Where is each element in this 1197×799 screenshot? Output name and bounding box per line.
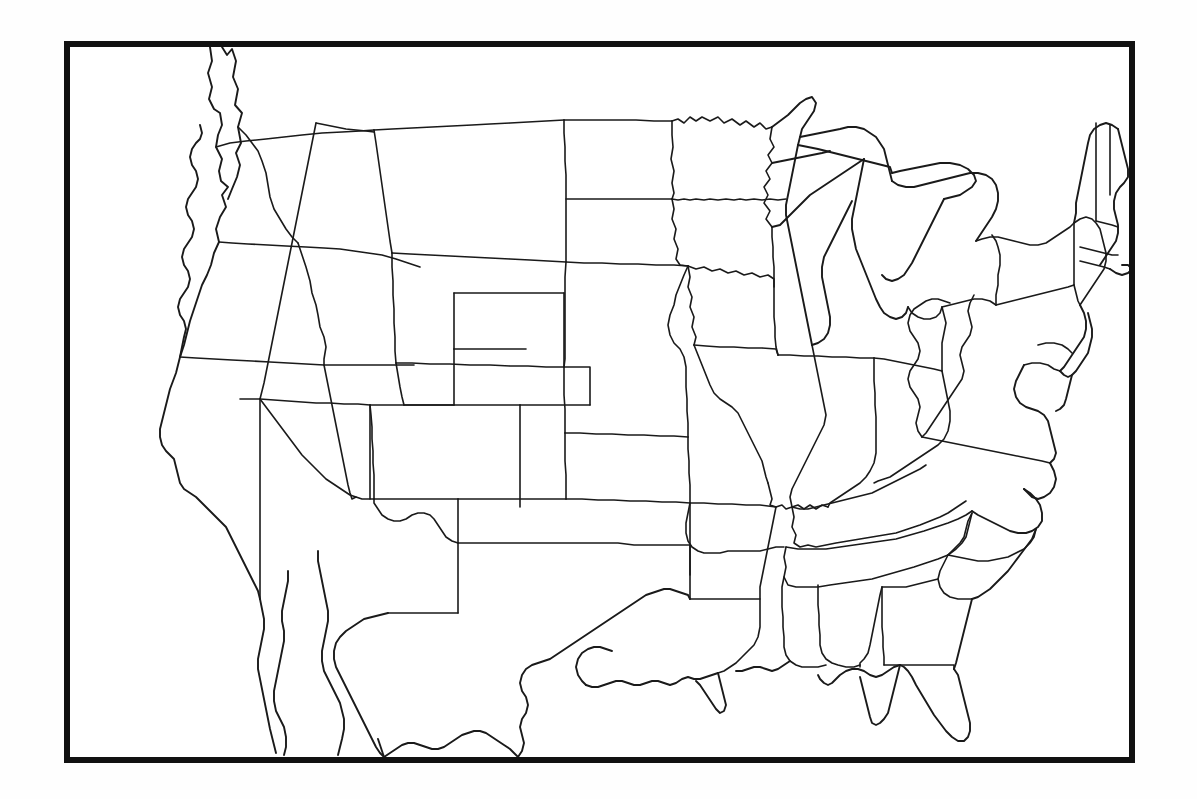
- baja-california-peninsula: [258, 551, 344, 755]
- state-south-carolina: [938, 529, 1036, 599]
- state-mississippi: [736, 577, 826, 671]
- state-new-mexico: [370, 405, 520, 543]
- state-alabama: [818, 585, 882, 667]
- state-kansas: [565, 433, 690, 503]
- state-florida: [818, 665, 970, 741]
- state-texas: [334, 543, 690, 757]
- state-missouri: [690, 345, 792, 509]
- great-lakes-and-upper-peninsula: [772, 97, 998, 281]
- state-oklahoma: [458, 499, 690, 575]
- state-wisconsin: [772, 145, 874, 358]
- state-tennessee: [784, 511, 972, 587]
- state-michigan-lower: [812, 159, 942, 345]
- state-south-dakota: [566, 199, 688, 266]
- state-iowa: [688, 266, 778, 355]
- state-ohio: [874, 299, 996, 483]
- state-arkansas: [686, 503, 784, 599]
- state-minnesota: [672, 117, 786, 227]
- map-page: [0, 0, 1197, 799]
- state-north-carolina: [948, 463, 1056, 561]
- state-north-dakota: [564, 120, 674, 199]
- state-wyoming: [392, 253, 566, 367]
- state-virginia: [922, 365, 1056, 463]
- new-england-states: [1074, 123, 1129, 275]
- map-border-frame: [64, 41, 1135, 763]
- state-arizona: [260, 399, 374, 499]
- state-california: [160, 125, 260, 599]
- state-montana: [374, 120, 566, 262]
- state-illinois: [790, 345, 828, 509]
- state-indiana: [828, 358, 942, 507]
- state-oregon: [180, 242, 324, 365]
- state-nebraska: [564, 266, 688, 437]
- us-outline-map: [70, 47, 1129, 757]
- state-georgia: [882, 579, 972, 669]
- state-louisiana: [586, 507, 776, 713]
- state-pennsylvania-new-york: [976, 217, 1106, 305]
- state-kentucky: [792, 465, 966, 547]
- mid-atlantic-states: [1024, 285, 1092, 411]
- state-utah: [396, 349, 526, 405]
